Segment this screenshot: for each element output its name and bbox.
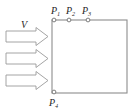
label-p2-base: P: [65, 5, 72, 16]
flow-arrow-1: [6, 28, 48, 46]
label-p2: P2: [65, 5, 75, 17]
tap-point-p2: [67, 18, 71, 22]
label-p1: P1: [50, 5, 60, 17]
tap-point-p3: [86, 18, 90, 22]
tap-point-p4: [52, 90, 56, 94]
label-p2-sub: 2: [72, 10, 75, 17]
label-p1-base: P: [50, 5, 57, 16]
rectangular-body: [52, 20, 127, 93]
flow-arrow-group: [6, 28, 48, 90]
velocity-label: V: [21, 19, 29, 30]
label-p4-base: P: [48, 97, 55, 108]
flow-arrow-3: [6, 72, 48, 90]
label-p3-sub: 3: [87, 10, 91, 17]
flow-arrow-2: [6, 50, 48, 68]
label-p3: P3: [81, 5, 91, 17]
label-p1-sub: 1: [57, 10, 60, 17]
tap-point-p1: [52, 18, 56, 22]
label-p4-sub: 4: [55, 102, 58, 109]
diagram-canvas: V P1 P2 P3 P4: [0, 0, 138, 111]
label-p4: P4: [48, 97, 58, 109]
physics-flow-diagram: V P1 P2 P3 P4: [0, 0, 138, 111]
label-p3-base: P: [81, 5, 88, 16]
